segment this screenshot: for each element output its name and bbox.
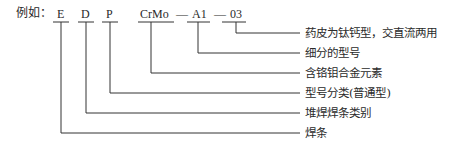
label-cr-mo-alloy: 含铬钼合金元素 [305, 66, 382, 80]
label-electrode: 焊条 [305, 126, 327, 140]
label-surfacing-category: 堆焊焊条类别 [305, 106, 371, 120]
label-subtype: 细分的型号 [305, 46, 360, 60]
label-model-class: 型号分类(普通型) [305, 86, 391, 100]
label-coating-type: 药皮为钛钙型，交直流两用 [305, 26, 437, 40]
